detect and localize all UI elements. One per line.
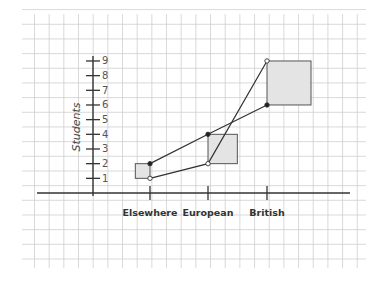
x-category-label: British [249,207,285,218]
range-box [267,61,311,105]
y-tick-label: 2 [102,158,108,169]
y-tick-label: 6 [102,99,108,110]
data-point [148,176,152,180]
series-lines [148,59,269,181]
data-point [206,132,210,136]
y-axis-title: Students [70,102,83,151]
y-tick-label: 4 [102,129,108,140]
y-tick-label: 9 [102,55,108,66]
y-tick-label: 3 [102,143,108,154]
data-point [265,103,269,107]
data-point [206,161,210,165]
data-point [265,59,269,63]
x-category-label: European [183,207,234,218]
range-box [135,164,150,179]
range-boxes [135,61,311,178]
y-tick-label: 8 [102,70,108,81]
chart: 123456789ElsewhereEuropeanBritishStudent… [0,0,386,283]
y-tick-label: 7 [102,85,108,96]
y-tick-label: 5 [102,114,108,125]
data-point [148,161,152,165]
y-tick-label: 1 [102,173,108,184]
x-category-label: Elsewhere [123,207,178,218]
